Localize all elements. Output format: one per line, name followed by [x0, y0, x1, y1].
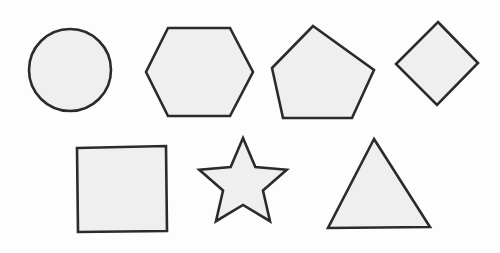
circle-shape	[29, 29, 111, 111]
hexagon-shape	[146, 28, 253, 116]
square-shape	[77, 146, 167, 232]
shape-canvas-container	[0, 0, 500, 253]
shapes-diagram	[0, 0, 500, 253]
